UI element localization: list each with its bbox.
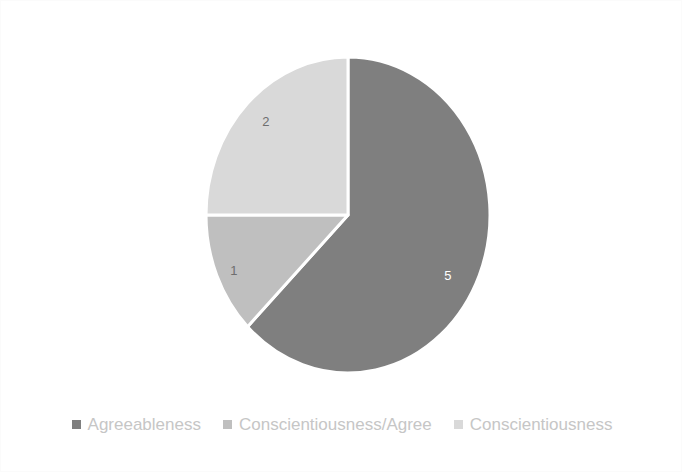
legend-item-label: Conscientiousness/Agree — [239, 416, 432, 433]
legend-item-label: Conscientiousness — [470, 416, 613, 433]
pie-slice[interactable] — [206, 57, 348, 215]
chart-legend: AgreeablenessConscientiousness/AgreeCons… — [1, 401, 682, 447]
pie-chart-canvas: 512 AgreeablenessConscientiousness/Agree… — [0, 0, 682, 472]
pie-svg: 512 — [1, 1, 682, 393]
legend-item[interactable]: Conscientiousness/Agree — [223, 416, 432, 433]
legend-swatch-icon — [223, 420, 232, 429]
pie-slice-value-label: 5 — [444, 268, 451, 283]
legend-swatch-icon — [72, 420, 81, 429]
pie-plot-area: 512 — [1, 1, 682, 393]
legend-item[interactable]: Conscientiousness — [454, 416, 613, 433]
legend-swatch-icon — [454, 420, 463, 429]
pie-slice-value-label: 2 — [262, 114, 269, 129]
pie-slice-value-label: 1 — [230, 263, 237, 278]
legend-item[interactable]: Agreeableness — [72, 416, 201, 433]
pie-slice-group — [206, 57, 490, 373]
legend-item-label: Agreeableness — [88, 416, 201, 433]
